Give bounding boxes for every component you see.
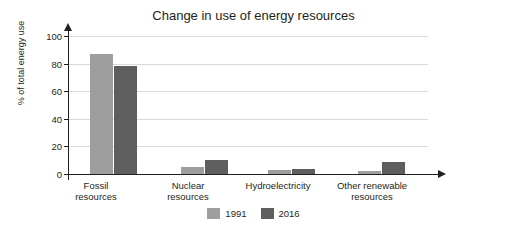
bar-1991-nuclear [181,167,204,174]
x-axis-line [68,174,440,175]
y-axis-title: % of total energy use [16,0,26,128]
x-label-other-renewable: Other renewable resources [322,180,422,202]
legend-label-1991: 1991 [225,208,246,219]
bar-2016-nuclear [205,160,228,174]
chart-figure: Change in use of energy resources 0 20 4… [0,0,507,242]
bar-1991-fossil [90,54,113,174]
y-tick-mark-40 [64,119,69,120]
bar-2016-fossil [114,66,137,174]
y-tick-label-40: 40 [36,114,62,125]
chart-title: Change in use of energy resources [0,8,507,23]
x-label-other-renewable-line1: Other renewable [322,180,422,191]
x-label-nuclear: Nuclear resources [150,180,226,202]
plot-area [68,36,428,174]
x-label-fossil: Fossil resources [58,180,134,202]
gridline-80 [68,64,428,65]
y-tick-label-0: 0 [36,169,62,180]
y-tick-label-80: 80 [36,59,62,70]
x-label-other-renewable-line2: resources [322,191,422,202]
legend-item-2016: 2016 [261,208,300,219]
bar-2016-other-renewable [382,162,405,174]
legend-swatch-2016 [261,208,274,219]
x-label-nuclear-line2: resources [150,191,226,202]
y-tick-mark-100 [64,36,69,37]
x-label-hydroelectricity-line1: Hydroelectricity [236,180,320,191]
y-tick-mark-60 [64,91,69,92]
x-label-fossil-line1: Fossil [58,180,134,191]
y-tick-mark-20 [64,146,69,147]
legend-item-1991: 1991 [207,208,246,219]
legend-label-2016: 2016 [279,208,300,219]
chart-legend: 1991 2016 [0,208,507,219]
y-tick-label-20: 20 [36,141,62,152]
y-axis-line [68,30,69,180]
y-tick-mark-80 [64,64,69,65]
x-axis-arrow [438,170,446,178]
x-label-fossil-line2: resources [58,191,134,202]
y-tick-label-100: 100 [36,31,62,42]
x-label-nuclear-line1: Nuclear [150,180,226,191]
y-tick-mark-0 [64,174,69,175]
gridline-100 [68,36,428,37]
y-axis-arrow [64,23,72,31]
legend-swatch-1991 [207,208,220,219]
y-tick-label-60: 60 [36,86,62,97]
x-label-hydroelectricity: Hydroelectricity [236,180,320,191]
